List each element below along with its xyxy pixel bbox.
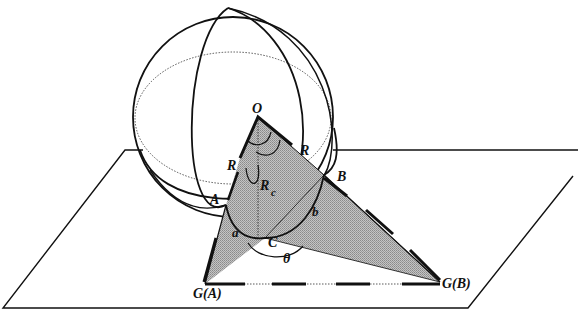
label-R-left: R <box>226 158 236 173</box>
label-Rc-subscript: c <box>271 186 276 198</box>
sphere-plane-diagram: O R R R c A B C a b θ G(A) G(B) <box>0 0 578 314</box>
label-C: C <box>268 235 278 250</box>
label-GB: G(B) <box>442 276 471 292</box>
label-R-right: R <box>299 143 309 158</box>
label-A: A <box>209 192 219 207</box>
label-Rc: R <box>259 178 269 193</box>
label-GA: G(A) <box>193 286 222 302</box>
label-O: O <box>252 101 262 116</box>
label-theta: θ <box>283 251 291 266</box>
label-B: B <box>336 169 346 184</box>
label-a: a <box>232 225 239 240</box>
label-b: b <box>312 204 319 219</box>
shaded-cones <box>205 117 440 284</box>
